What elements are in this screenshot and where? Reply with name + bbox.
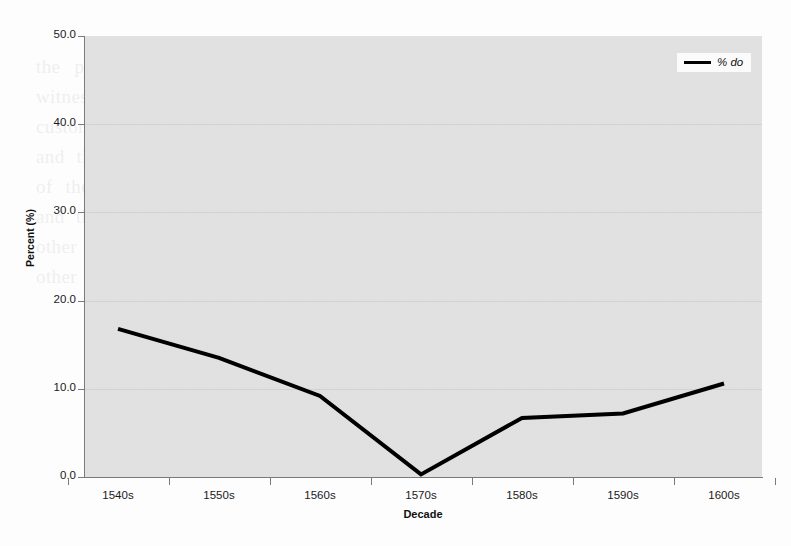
x-axis-tick (472, 478, 473, 485)
y-axis-tick-label: 0.0 (30, 469, 76, 481)
y-axis-title: Percent (%) (24, 178, 36, 298)
gridline (84, 124, 762, 125)
y-axis-tick (78, 36, 84, 37)
y-axis-tick (78, 477, 84, 478)
x-axis-title: Decade (84, 508, 762, 520)
y-axis-tick (78, 301, 84, 302)
x-axis-tick (775, 478, 776, 485)
y-axis-tick-label: 30.0 (30, 204, 76, 216)
x-axis-tick (371, 478, 372, 485)
x-axis-tick (674, 478, 675, 485)
x-axis-tick-label: 1600s (679, 489, 769, 501)
x-axis-tick (169, 478, 170, 485)
y-axis-tick-label: 10.0 (30, 381, 76, 393)
x-axis-tick-label: 1580s (477, 489, 567, 501)
line-chart: 0.010.020.030.040.050.0 1540s1550s1560s1… (0, 0, 791, 546)
paper-texture-overlay (84, 36, 762, 477)
x-axis-line (84, 477, 763, 478)
y-axis-tick (78, 212, 84, 213)
x-axis-tick-label: 1540s (73, 489, 163, 501)
plot-area (84, 36, 762, 477)
y-axis-tick-label: 20.0 (30, 293, 76, 305)
legend: % do (677, 53, 751, 72)
y-axis-tick (78, 389, 84, 390)
gridline (84, 212, 762, 213)
y-axis-tick-label: 50.0 (30, 28, 76, 40)
legend-label-percent-do: % do (717, 56, 743, 68)
x-axis-tick (270, 478, 271, 485)
y-axis-tick-label: 40.0 (30, 116, 76, 128)
x-axis-tick (68, 478, 69, 485)
legend-swatch-percent-do (684, 61, 711, 64)
gridline (84, 389, 762, 390)
x-axis-tick-label: 1550s (174, 489, 264, 501)
x-axis-tick-label: 1560s (275, 489, 365, 501)
x-axis-tick-label: 1570s (376, 489, 466, 501)
y-axis-line (84, 36, 85, 478)
x-axis-tick-label: 1590s (578, 489, 668, 501)
gridline (84, 301, 762, 302)
x-axis-tick (573, 478, 574, 485)
y-axis-tick (78, 124, 84, 125)
